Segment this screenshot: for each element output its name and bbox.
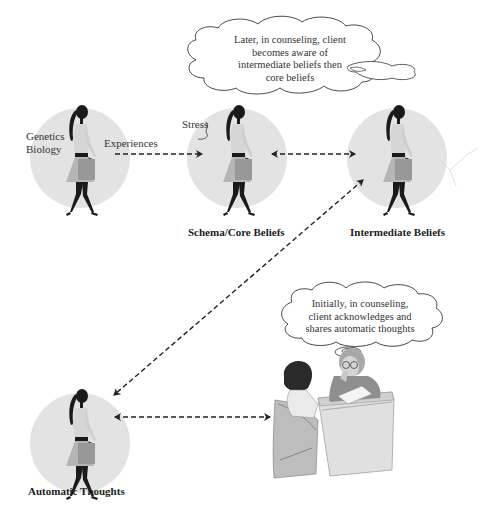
counseling-scene-icon [273,348,394,478]
biology-label: Biology [26,143,61,156]
bubble-line: client acknowledges and [285,311,435,324]
experiences-edge-label: Experiences [104,137,158,150]
genetics-label: Genetics [26,130,64,143]
thought-bubble-initially-text: Initially, in counseling, client acknowl… [285,298,435,336]
bubble-line: shares automatic thoughts [285,323,435,336]
intermediate-beliefs-caption: Intermediate Beliefs [350,226,445,239]
thought-bubble-later-text: Later, in counseling, client becomes awa… [200,34,380,84]
bubble-line: Later, in counseling, client [200,34,380,47]
bubble-line: Initially, in counseling, [285,298,435,311]
schema-core-beliefs-caption: Schema/Core Beliefs [188,226,285,239]
bubble-line: intermediate beliefs then [200,59,380,72]
automatic-thoughts-caption: Automatic Thoughts [28,485,125,498]
bubble-line: core beliefs [200,72,380,85]
stress-label: Stress [182,118,208,131]
bubble-line: becomes aware of [200,47,380,60]
